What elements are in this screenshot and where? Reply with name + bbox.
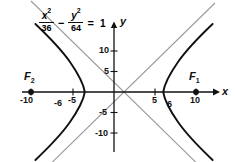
equation-term-2-denominator: 64 xyxy=(69,23,83,33)
y-tick-label-5: 5 xyxy=(104,67,109,76)
equation-term-1: x2 36 xyxy=(39,11,54,33)
equation-equals-sign: = xyxy=(87,17,93,29)
x-axis-arrow xyxy=(213,89,220,96)
y-tick-label-minus10: -10 xyxy=(95,129,108,138)
hyperbola-figure: x2 36 − y2 64 = 1 y x -10 -6 -5 5 6 10 1… xyxy=(0,0,235,162)
x-tick-label-5: 5 xyxy=(152,96,157,105)
equation-term-2-numerator: y2 xyxy=(69,11,82,22)
focus-label-f1: F1 xyxy=(189,71,200,82)
equation-term-2: y2 64 xyxy=(68,11,83,33)
x-tick-label-minus5: -5 xyxy=(68,96,76,105)
x-axis-label: x xyxy=(222,86,228,97)
equation-right-hand-side: 1 xyxy=(100,18,106,29)
y-axis-arrow xyxy=(111,22,117,29)
y-tick-label-10: 10 xyxy=(99,46,109,55)
equation-term-1-exponent: 2 xyxy=(47,7,51,14)
hyperbola-equation: x2 36 − y2 64 = 1 xyxy=(38,11,105,33)
equation-minus-operator: − xyxy=(58,17,64,29)
x-tick-label-10: 10 xyxy=(190,96,200,105)
y-axis-label: y xyxy=(120,16,126,27)
equation-term-1-numerator: x2 xyxy=(40,11,53,22)
y-tick-label-minus5: -5 xyxy=(99,108,107,117)
focus-label-f2: F2 xyxy=(24,71,35,82)
x-tick-label-minus6: -6 xyxy=(54,99,62,108)
x-tick-label-minus10: -10 xyxy=(20,96,33,105)
focus-label-f1-subscript: 1 xyxy=(196,77,200,84)
equation-term-2-exponent: 2 xyxy=(77,7,81,14)
x-tick-label-6: 6 xyxy=(167,100,172,109)
equation-term-1-denominator: 36 xyxy=(39,23,53,33)
focus-label-f2-subscript: 2 xyxy=(31,77,35,84)
